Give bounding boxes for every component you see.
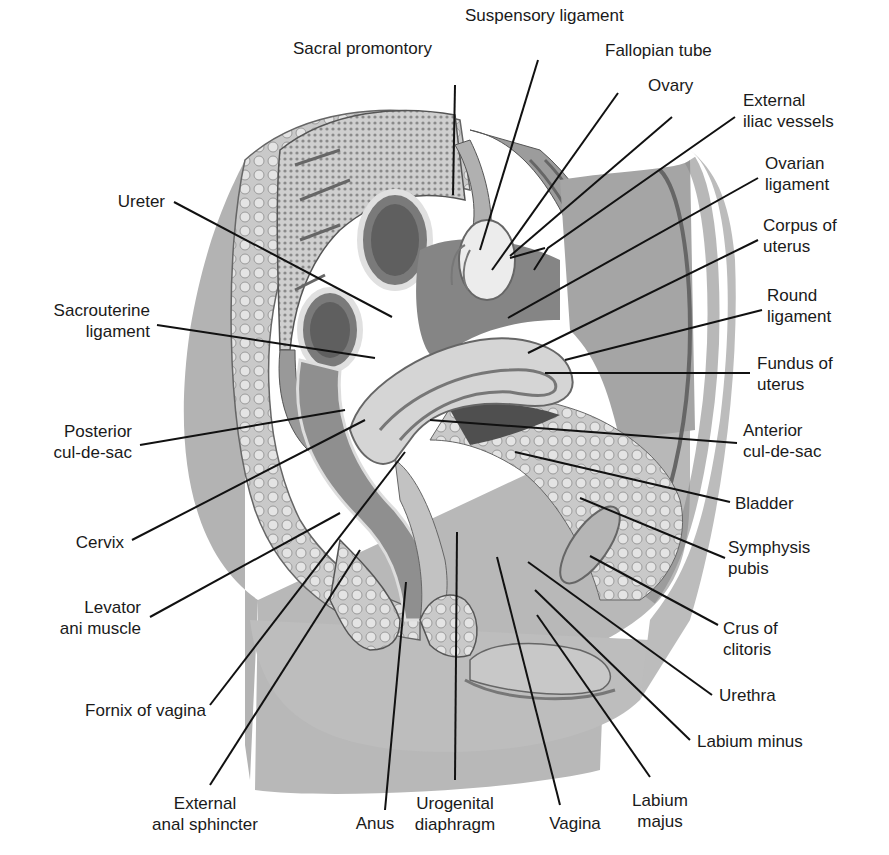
label-bladder: Bladder xyxy=(735,493,794,514)
label-round-ligament: Round ligament xyxy=(767,285,831,327)
label-text: Round xyxy=(767,285,831,306)
label-text: ligament xyxy=(54,321,150,342)
label-text: Cervix xyxy=(76,532,124,553)
label-text: Urogenital xyxy=(405,793,505,814)
label-anus: Anus xyxy=(345,813,405,834)
label-sacral-promontory: Sacral promontory xyxy=(293,38,432,59)
label-labium-majus: Labium majus xyxy=(625,790,695,832)
label-text: Anterior xyxy=(743,420,821,441)
label-text: Symphysis xyxy=(728,537,810,558)
label-text: Fallopian tube xyxy=(605,40,712,61)
label-posterior-cul-de-sac: Posterior cul-de-sac xyxy=(54,421,132,463)
label-urethra: Urethra xyxy=(719,685,776,706)
label-text: Fundus of xyxy=(757,353,833,374)
label-text: Urethra xyxy=(719,685,776,706)
label-text: External xyxy=(140,793,270,814)
label-text: iliac vessels xyxy=(743,111,834,132)
label-text: Ovary xyxy=(648,75,693,96)
label-text: anal sphincter xyxy=(140,814,270,835)
label-text: pubis xyxy=(728,558,810,579)
label-text: ligament xyxy=(767,306,831,327)
label-text: Corpus of xyxy=(763,215,837,236)
label-text: Anus xyxy=(345,813,405,834)
label-anterior-cul-de-sac: Anterior cul-de-sac xyxy=(743,420,821,462)
label-fallopian-tube: Fallopian tube xyxy=(605,40,712,61)
label-labium-minus: Labium minus xyxy=(697,731,803,752)
label-text: Labium minus xyxy=(697,731,803,752)
label-ovarian-ligament: Ovarian ligament xyxy=(765,153,829,195)
label-text: cul-de-sac xyxy=(743,441,821,462)
label-suspensory-ligament: Suspensory ligament xyxy=(465,5,624,26)
label-text: External xyxy=(743,90,834,111)
label-text: uterus xyxy=(757,374,833,395)
label-text: Ureter xyxy=(118,191,165,212)
label-cervix: Cervix xyxy=(76,532,124,553)
label-sacrouterine-ligament: Sacrouterine ligament xyxy=(54,300,150,342)
label-text: Vagina xyxy=(540,813,610,834)
label-text: Fornix of vagina xyxy=(85,700,206,721)
label-text: Levator xyxy=(60,597,141,618)
label-fundus-of-uterus: Fundus of uterus xyxy=(757,353,833,395)
label-text: Ovarian xyxy=(765,153,829,174)
label-corpus-of-uterus: Corpus of uterus xyxy=(763,215,837,257)
label-levator-ani-muscle: Levator ani muscle xyxy=(60,597,141,639)
label-ureter: Ureter xyxy=(118,191,165,212)
label-fornix-of-vagina: Fornix of vagina xyxy=(85,700,206,721)
label-text: Crus of xyxy=(723,618,778,639)
label-text: cul-de-sac xyxy=(54,442,132,463)
label-text: ligament xyxy=(765,174,829,195)
label-external-anal-sphincter: External anal sphincter xyxy=(140,793,270,835)
label-text: Sacrouterine xyxy=(54,300,150,321)
label-vagina: Vagina xyxy=(540,813,610,834)
label-text: clitoris xyxy=(723,639,778,660)
label-external-iliac-vessels: External iliac vessels xyxy=(743,90,834,132)
label-text: Posterior xyxy=(54,421,132,442)
label-text: Labium xyxy=(625,790,695,811)
label-symphysis-pubis: Symphysis pubis xyxy=(728,537,810,579)
label-text: Suspensory ligament xyxy=(465,5,624,26)
label-text: uterus xyxy=(763,236,837,257)
label-ovary: Ovary xyxy=(648,75,693,96)
label-text: ani muscle xyxy=(60,618,141,639)
label-text: Bladder xyxy=(735,493,794,514)
label-text: Sacral promontory xyxy=(293,38,432,59)
label-text: diaphragm xyxy=(405,814,505,835)
label-urogenital-diaphragm: Urogenital diaphragm xyxy=(405,793,505,835)
label-crus-of-clitoris: Crus of clitoris xyxy=(723,618,778,660)
label-text: majus xyxy=(625,811,695,832)
